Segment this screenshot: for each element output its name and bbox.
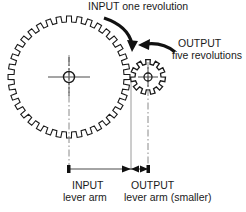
input-lever-arm-label: INPUT — [72, 180, 104, 191]
input-rotation-arrow — [104, 18, 138, 52]
output-revolution-sublabel: five revolutions — [172, 50, 242, 61]
output-lever-arm-label: OUTPUT — [131, 180, 174, 191]
output-revolution-label: OUTPUT — [178, 38, 221, 49]
output-lever-arm-sublabel: lever arm (smaller) — [124, 192, 212, 203]
input-revolution-label: INPUT one revolution — [88, 1, 188, 12]
diagram-canvas — [0, 0, 246, 212]
output-rotation-arrow — [138, 39, 175, 52]
output-lever-arm-dimension — [131, 165, 150, 173]
input-lever-arm-sublabel: lever arm — [63, 192, 107, 203]
gear-diagram: INPUT one revolution OUTPUT five revolut… — [0, 0, 246, 212]
input-lever-arm-dimension — [67, 165, 131, 173]
